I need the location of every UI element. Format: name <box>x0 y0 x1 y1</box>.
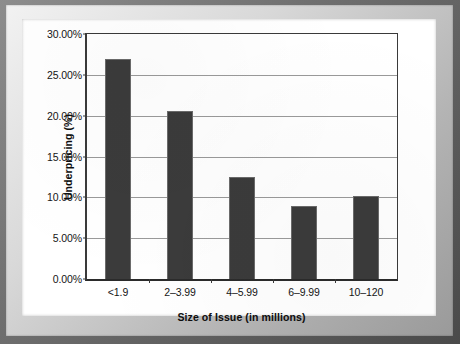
y-axis-tick-mark <box>83 74 87 75</box>
y-axis-tick-label: 20.00% <box>47 110 82 122</box>
figure-photo-frame: Underpricing (%) 0.00%5.00%10.00%15.00%2… <box>0 0 460 344</box>
gridline <box>87 157 397 158</box>
x-axis-tick-mark <box>273 279 274 283</box>
figure-page: Underpricing (%) 0.00%5.00%10.00%15.00%2… <box>22 19 436 316</box>
y-axis-tick-mark <box>83 279 87 280</box>
y-axis-tick-mark <box>83 197 87 198</box>
x-axis-tick-mark <box>211 279 212 283</box>
bar-5 <box>353 196 379 279</box>
y-axis-tick-label: 15.00% <box>47 151 82 163</box>
x-axis-tick-label: 2–3.99 <box>164 286 196 298</box>
x-axis-tick-label: 4–5.99 <box>226 286 258 298</box>
plot-area: 0.00%5.00%10.00%15.00%20.00%25.00%30.00%… <box>85 33 398 281</box>
y-axis-tick-label: 30.00% <box>47 28 82 40</box>
x-axis-tick-label: 10–120 <box>349 286 383 298</box>
x-axis-title: Size of Issue (in millions) <box>85 311 398 323</box>
y-axis-tick-mark <box>83 238 87 239</box>
bar-3 <box>229 177 255 279</box>
bar-chart: Underpricing (%) 0.00%5.00%10.00%15.00%2… <box>22 19 436 316</box>
y-axis-tick-mark <box>83 115 87 116</box>
x-axis-tick-mark <box>149 279 150 283</box>
x-axis-tick-label: <1.9 <box>108 286 128 298</box>
y-axis-tick-mark <box>83 156 87 157</box>
y-axis-tick-label: 25.00% <box>47 69 82 81</box>
y-axis-tick-mark <box>83 34 87 35</box>
y-axis-tick-label: 0.00% <box>53 273 82 285</box>
x-axis-tick-label: 6–9.99 <box>288 286 320 298</box>
figure-bevel-border: Underpricing (%) 0.00%5.00%10.00%15.00%2… <box>6 5 453 336</box>
gridline <box>87 75 397 76</box>
y-axis-tick-label: 10.00% <box>47 191 82 203</box>
bar-1 <box>105 59 131 279</box>
gridline <box>87 116 397 117</box>
y-axis-tick-label: 5.00% <box>53 232 82 244</box>
bar-4 <box>291 206 317 279</box>
x-axis-tick-mark <box>335 279 336 283</box>
bar-2 <box>167 111 193 279</box>
